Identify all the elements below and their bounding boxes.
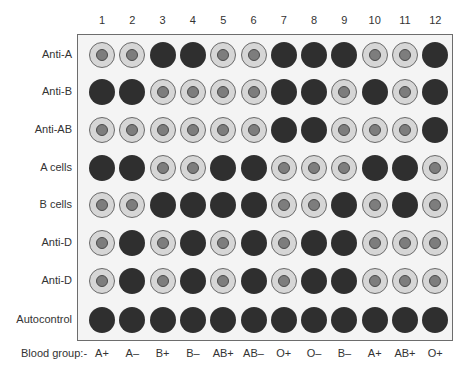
negative-well — [271, 192, 297, 218]
negative-well — [150, 230, 176, 256]
negative-well — [210, 79, 236, 105]
column-label: 6 — [239, 14, 269, 26]
agglutinated-well — [392, 192, 418, 218]
agglutinated-well — [392, 307, 418, 333]
blood-group-value: O– — [299, 347, 329, 359]
agglutinated-well — [301, 307, 327, 333]
row-label: B cells — [40, 198, 72, 210]
agglutinated-well — [150, 307, 176, 333]
column-label: 8 — [299, 14, 329, 26]
negative-well — [362, 192, 388, 218]
negative-well — [210, 230, 236, 256]
agglutinated-well — [89, 79, 115, 105]
negative-well — [392, 42, 418, 68]
blood-group-value: B– — [178, 347, 208, 359]
agglutinated-well — [89, 307, 115, 333]
agglutinated-well — [301, 117, 327, 143]
agglutinated-well — [241, 230, 267, 256]
negative-well — [89, 230, 115, 256]
negative-well — [392, 268, 418, 294]
column-label: 4 — [178, 14, 208, 26]
row-label: Anti-D — [41, 236, 72, 248]
agglutinated-well — [301, 268, 327, 294]
agglutinated-well — [180, 268, 206, 294]
agglutinated-well — [241, 192, 267, 218]
negative-well — [241, 42, 267, 68]
row-label: Anti-AB — [35, 123, 72, 135]
agglutinated-well — [271, 42, 297, 68]
agglutinated-well — [241, 268, 267, 294]
agglutinated-well — [271, 79, 297, 105]
agglutinated-well — [241, 155, 267, 181]
blood-group-value: O+ — [420, 347, 450, 359]
column-label: 10 — [360, 14, 390, 26]
negative-well — [392, 79, 418, 105]
agglutinated-well — [210, 307, 236, 333]
negative-well — [180, 79, 206, 105]
negative-well — [362, 230, 388, 256]
column-label: 2 — [117, 14, 147, 26]
blood-group-value: O+ — [269, 347, 299, 359]
blood-group-value: A– — [117, 347, 147, 359]
negative-well — [89, 42, 115, 68]
negative-well — [362, 268, 388, 294]
negative-well — [362, 117, 388, 143]
agglutinated-well — [89, 155, 115, 181]
negative-well — [271, 268, 297, 294]
agglutinated-well — [241, 307, 267, 333]
agglutinated-well — [301, 79, 327, 105]
agglutinated-well — [150, 42, 176, 68]
column-label: 12 — [420, 14, 450, 26]
column-label: 5 — [208, 14, 238, 26]
negative-well — [271, 230, 297, 256]
agglutinated-well — [210, 155, 236, 181]
negative-well — [392, 117, 418, 143]
agglutinated-well — [150, 192, 176, 218]
agglutinated-well — [180, 42, 206, 68]
negative-well — [150, 117, 176, 143]
agglutinated-well — [210, 192, 236, 218]
agglutinated-well — [362, 79, 388, 105]
agglutinated-well — [180, 230, 206, 256]
column-label: 9 — [329, 14, 359, 26]
agglutinated-well — [180, 307, 206, 333]
blood-group-value: B– — [329, 347, 359, 359]
row-label: A cells — [40, 161, 72, 173]
negative-well — [150, 155, 176, 181]
agglutinated-well — [180, 192, 206, 218]
agglutinated-well — [362, 155, 388, 181]
row-label: Anti-B — [42, 85, 72, 97]
column-label: 1 — [87, 14, 117, 26]
negative-well — [180, 117, 206, 143]
agglutinated-well — [301, 230, 327, 256]
agglutinated-well — [271, 307, 297, 333]
agglutinated-well — [271, 117, 297, 143]
row-label: Autocontrol — [16, 313, 72, 325]
row-label: Anti-A — [42, 48, 72, 60]
column-label: 7 — [269, 14, 299, 26]
blood-group-value: A+ — [87, 347, 117, 359]
negative-well — [89, 192, 115, 218]
negative-well — [180, 155, 206, 181]
negative-well — [210, 268, 236, 294]
agglutinated-well — [362, 307, 388, 333]
negative-well — [89, 117, 115, 143]
blood-group-value: A+ — [360, 347, 390, 359]
negative-well — [210, 42, 236, 68]
negative-well — [271, 155, 297, 181]
row-label: Anti-D — [41, 274, 72, 286]
agglutinated-well — [301, 42, 327, 68]
negative-well — [241, 117, 267, 143]
agglutinated-well — [392, 155, 418, 181]
negative-well — [301, 155, 327, 181]
negative-well — [241, 79, 267, 105]
column-label: 3 — [148, 14, 178, 26]
blood-group-value: AB– — [239, 347, 269, 359]
negative-well — [210, 117, 236, 143]
negative-well — [150, 268, 176, 294]
negative-well — [89, 268, 115, 294]
negative-well — [301, 192, 327, 218]
negative-well — [392, 230, 418, 256]
blood-group-value: AB+ — [390, 347, 420, 359]
negative-well — [362, 42, 388, 68]
